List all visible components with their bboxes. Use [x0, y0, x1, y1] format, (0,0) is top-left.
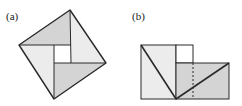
top-small-square: [176, 45, 193, 63]
diagram-canvas: [0, 0, 242, 106]
inner-square: [54, 45, 71, 63]
figure-a: [19, 10, 106, 99]
figure-b: [141, 45, 229, 99]
diagram-root: (a) (b): [0, 0, 242, 106]
